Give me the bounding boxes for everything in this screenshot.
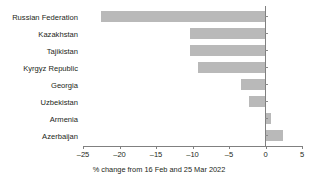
zero-reference-line	[265, 6, 266, 146]
x-axis-tick--20	[120, 146, 121, 149]
x-axis-tick--5	[229, 146, 230, 149]
zero-tick-8	[265, 135, 268, 136]
category-label-tajikistan: Tajikistan	[47, 48, 78, 56]
x-tick-label--25: –25	[71, 151, 95, 159]
category-label-azerbaijan: Azerbaijan	[42, 133, 78, 141]
category-label-russian-federation: Russian Federation	[12, 14, 78, 22]
zero-tick-7	[265, 118, 268, 119]
x-axis-tick--15	[156, 146, 157, 149]
bar-tajikistan	[190, 45, 266, 56]
x-axis-tick-0	[266, 146, 267, 149]
x-tick-label--10: –10	[181, 151, 205, 159]
plot-area: Russian Federation Kazakhstan Tajikistan…	[0, 0, 318, 184]
zero-tick-6	[265, 101, 268, 102]
x-tick-label--5: –5	[217, 151, 241, 159]
category-label-kazakhstan: Kazakhstan	[38, 31, 78, 39]
zero-tick-4	[265, 67, 268, 68]
chart-figure: Russian Federation Kazakhstan Tajikistan…	[0, 0, 318, 184]
bar-kazakhstan	[190, 28, 266, 39]
zero-tick-2	[265, 33, 268, 34]
zero-tick-3	[265, 50, 268, 51]
category-label-kyrgyz-republic: Kyrgyz Republic	[23, 65, 78, 73]
bar-georgia	[241, 79, 265, 90]
zero-tick-1	[265, 16, 268, 17]
x-axis-tick-5	[302, 146, 303, 149]
bar-kyrgyz-republic	[198, 62, 266, 73]
x-axis-tick--10	[193, 146, 194, 149]
x-tick-label--20: –20	[108, 151, 132, 159]
x-tick-label-5: 5	[290, 151, 314, 159]
category-label-georgia: Georgia	[51, 82, 78, 90]
x-axis-title: % change from 16 Feb and 25 Mar 2022	[0, 166, 318, 173]
x-axis-tick--25	[83, 146, 84, 149]
bar-uzbekistan	[249, 96, 265, 107]
zero-tick-5	[265, 84, 268, 85]
category-label-armenia: Armenia	[50, 116, 78, 124]
category-label-uzbekistan: Uzbekistan	[40, 99, 78, 107]
bar-russian-federation	[101, 11, 265, 22]
bar-azerbaijan	[266, 130, 284, 141]
x-tick-label--15: –15	[144, 151, 168, 159]
x-tick-label-0: 0	[254, 151, 278, 159]
